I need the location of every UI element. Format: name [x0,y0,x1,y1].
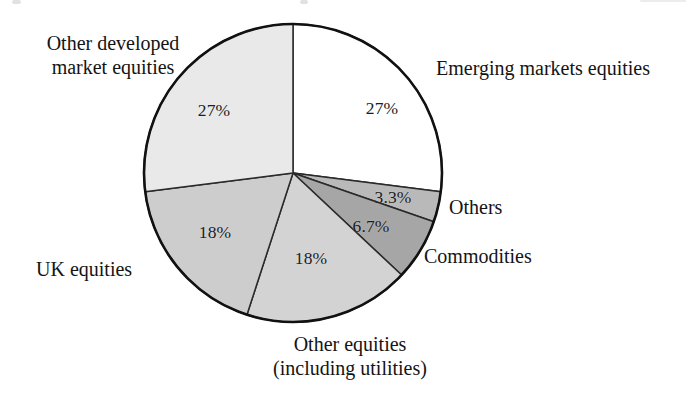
category-label-other-equities-line2: (including utilities) [200,357,500,381]
category-label-other-equities: Other equities (including utilities) [200,333,500,380]
category-label-other-developed-line1: Other developed [8,32,218,56]
category-label-uk-equities: UK equities [36,258,132,282]
pie-chart-figure: 27% 3.3% 6.7% 18% 18% 27% Other develope… [0,0,692,397]
category-label-other-equities-line1: Other equities [200,333,500,357]
slice-value-emerging-markets: 27% [366,98,398,119]
slice-value-others: 3.3% [375,187,412,208]
category-label-other-developed: Other developed market equities [8,32,218,79]
category-label-others: Others [449,196,502,220]
category-label-emerging-markets: Emerging markets equities [436,57,650,81]
category-label-other-developed-line2: market equities [8,56,218,80]
slice-value-commodities: 6.7% [353,216,390,237]
slice-value-other-developed: 27% [198,100,230,121]
slice-value-other-equities: 18% [295,248,327,269]
category-label-commodities: Commodities [424,245,532,269]
slice-value-uk-equities: 18% [199,222,231,243]
